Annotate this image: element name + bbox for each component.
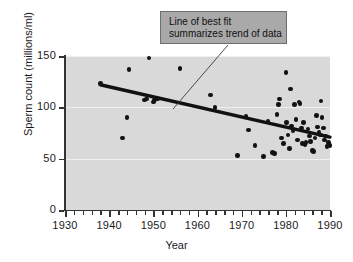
data-point <box>314 113 319 118</box>
data-point <box>299 126 304 131</box>
x-tick-major <box>242 211 244 217</box>
data-point <box>98 81 103 86</box>
x-tick-label: 1970 <box>222 219 262 231</box>
data-point <box>272 151 277 156</box>
data-point <box>120 136 125 141</box>
x-tick-minor <box>304 211 306 215</box>
x-tick-label: 1940 <box>89 219 129 231</box>
x-tick-minor <box>277 211 279 215</box>
y-tick <box>59 159 64 161</box>
x-tick-major <box>109 211 111 217</box>
data-point <box>213 105 218 110</box>
x-tick-major <box>330 211 332 217</box>
plot-area <box>65 56 330 210</box>
data-point <box>178 66 183 71</box>
y-tick <box>59 107 64 109</box>
x-tick-minor <box>268 211 270 215</box>
x-tick-label: 1930 <box>45 219 85 231</box>
y-tick <box>59 56 64 58</box>
annotation-line-1: Line of best fit <box>169 16 286 28</box>
data-point <box>311 149 316 154</box>
data-point <box>281 141 286 146</box>
x-tick-major <box>65 211 67 217</box>
x-tick-label: 1950 <box>133 219 173 231</box>
y-tick <box>59 210 64 212</box>
x-tick-minor <box>233 211 235 215</box>
x-tick-minor <box>224 211 226 215</box>
x-tick-minor <box>118 211 120 215</box>
x-tick-label: 1980 <box>266 219 306 231</box>
x-tick-major <box>153 211 155 217</box>
x-tick-minor <box>136 211 138 215</box>
trend-line <box>65 56 330 210</box>
x-tick-minor <box>215 211 217 215</box>
x-tick-minor <box>83 211 85 215</box>
x-tick-minor <box>312 211 314 215</box>
x-tick-minor <box>74 211 76 215</box>
x-tick-minor <box>145 211 147 215</box>
y-tick-label: 0 <box>4 203 56 215</box>
x-tick-minor <box>162 211 164 215</box>
x-tick-minor <box>251 211 253 215</box>
x-tick-minor <box>295 211 297 215</box>
x-tick-minor <box>127 211 129 215</box>
data-point <box>235 153 240 158</box>
annotation-line-2: summarizes trend of data <box>169 28 286 40</box>
data-point <box>289 124 294 129</box>
x-tick-label: 1990 <box>310 219 350 231</box>
data-point <box>315 125 320 130</box>
y-axis-title: Sperm count (millions/ml) <box>22 0 34 154</box>
data-point <box>246 128 251 133</box>
x-axis-title: Year <box>0 239 353 251</box>
data-point <box>287 146 292 151</box>
data-point <box>307 134 312 139</box>
data-point <box>253 143 258 148</box>
data-point <box>295 138 300 143</box>
data-point <box>288 87 293 92</box>
data-point <box>301 120 306 125</box>
data-point <box>328 143 333 148</box>
x-tick-minor <box>259 211 261 215</box>
y-axis-line <box>64 55 66 211</box>
x-tick-major <box>198 211 200 217</box>
data-point <box>321 126 326 131</box>
data-point <box>275 112 280 117</box>
data-point <box>279 136 284 141</box>
data-point <box>308 139 313 144</box>
x-tick-label: 1960 <box>178 219 218 231</box>
data-point <box>125 115 130 120</box>
data-point <box>318 133 323 138</box>
sperm-count-scatter-figure: 050100150 1930194019501960197019801990 S… <box>0 0 353 262</box>
x-tick-minor <box>180 211 182 215</box>
data-point <box>127 67 132 72</box>
x-tick-minor <box>189 211 191 215</box>
x-tick-minor <box>100 211 102 215</box>
data-point <box>284 70 289 75</box>
x-tick-minor <box>92 211 94 215</box>
x-tick-minor <box>171 211 173 215</box>
annotation-callout: Line of best fit summarizes trend of dat… <box>160 11 287 44</box>
x-tick-minor <box>321 211 323 215</box>
data-point <box>276 102 281 107</box>
data-point <box>261 154 266 159</box>
x-tick-minor <box>206 211 208 215</box>
data-point <box>298 101 303 106</box>
x-tick-major <box>286 211 288 217</box>
